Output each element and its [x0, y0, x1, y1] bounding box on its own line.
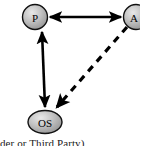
- edge-p-to-os: [42, 32, 45, 107]
- node-a[interactable]: A: [124, 5, 141, 30]
- node-os-label: OS: [38, 117, 52, 129]
- diagram-svg: P A OS: [0, 0, 140, 146]
- node-os[interactable]: OS: [28, 111, 62, 134]
- node-p-label: P: [32, 12, 38, 24]
- figure-caption: der or Third Party): [0, 137, 140, 146]
- edge-p-to-os-line: [42, 32, 45, 107]
- diagram-canvas: P A OS der or Third Party): [0, 0, 140, 146]
- node-a-label: A: [130, 12, 138, 24]
- node-p[interactable]: P: [23, 5, 48, 30]
- edge-a-to-os-line: [57, 27, 127, 107]
- edge-a-to-os: [57, 27, 127, 107]
